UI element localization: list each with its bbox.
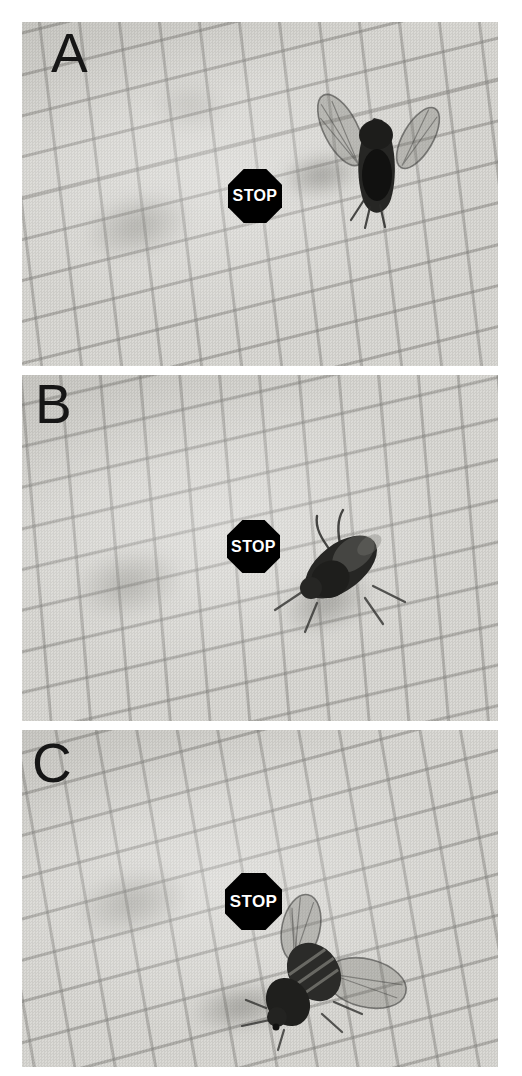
panel-label-c: C bbox=[32, 736, 72, 791]
panel-b: STOP B bbox=[22, 375, 498, 721]
photo-c: STOP C bbox=[22, 730, 498, 1067]
fly-body bbox=[358, 118, 395, 213]
stop-sign: STOP bbox=[227, 520, 280, 573]
panel-a: STOP A bbox=[22, 22, 498, 366]
stop-sign: STOP bbox=[228, 169, 282, 223]
right-wing bbox=[388, 101, 448, 175]
stop-sign-label: STOP bbox=[231, 539, 276, 555]
panel-c: STOP C bbox=[22, 730, 498, 1067]
stop-sign: STOP bbox=[225, 873, 282, 930]
stop-sign-label: STOP bbox=[233, 188, 278, 204]
photo-b: STOP B bbox=[22, 375, 498, 721]
paper-smudge bbox=[140, 74, 240, 138]
photo-a: STOP A bbox=[22, 22, 498, 366]
fly-illustration-wings-folded bbox=[255, 490, 415, 640]
panel-label-b: B bbox=[35, 377, 72, 432]
fly-illustration-wings-spread bbox=[300, 80, 460, 230]
fly-head bbox=[300, 577, 322, 599]
stop-sign-label: STOP bbox=[230, 893, 278, 910]
panel-label-a: A bbox=[51, 26, 88, 81]
